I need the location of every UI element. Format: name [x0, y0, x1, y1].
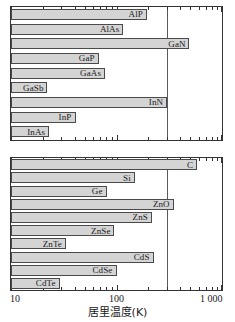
- axis-tick-minor: [112, 287, 113, 290]
- chart-panel-iii-v: AlPAlAsGaNGaPGaAsGaSbInNInPInAs: [10, 6, 223, 141]
- axis-tick-minor: [206, 137, 207, 140]
- axis-tick-major: [117, 285, 118, 290]
- bar-label-c: C: [187, 160, 193, 171]
- x-tick-label-10: 10: [10, 293, 20, 305]
- axis-tick-minor: [190, 287, 191, 290]
- axis-tick-minor: [75, 137, 76, 140]
- axis-tick-minor: [190, 7, 191, 10]
- axis-tick-minor: [148, 137, 149, 140]
- axis-tick-minor: [93, 137, 94, 140]
- axis-tick-minor: [199, 158, 200, 161]
- axis-tick-minor: [212, 137, 213, 140]
- axis-tick-major: [221, 285, 222, 290]
- axis-tick-minor: [167, 287, 168, 290]
- x-tick-label-100: 100: [109, 293, 124, 305]
- axis-tick-minor: [212, 7, 213, 10]
- bar-zno[interactable]: [11, 199, 174, 210]
- bar-label-alas: AlAs: [100, 24, 119, 35]
- bar-gan[interactable]: [11, 38, 189, 49]
- axis-tick-minor: [199, 137, 200, 140]
- room-temperature-reference-line: [167, 158, 168, 290]
- axis-tick-minor: [106, 287, 107, 290]
- axis-tick-major: [221, 135, 222, 140]
- bar-label-inp: InP: [59, 112, 72, 123]
- bar-cds[interactable]: [11, 252, 154, 263]
- bar-label-zns: ZnS: [133, 212, 148, 223]
- x-tick-label-1000: 1 000: [200, 293, 223, 305]
- axis-tick-minor: [100, 137, 101, 140]
- axis-tick-major: [221, 7, 222, 12]
- room-temperature-reference-line: [167, 7, 168, 140]
- axis-tick-minor: [75, 287, 76, 290]
- axis-tick-minor: [217, 7, 218, 10]
- bar-label-gan: GaN: [168, 39, 185, 50]
- axis-tick-minor: [61, 287, 62, 290]
- axis-tick-minor: [217, 158, 218, 161]
- bar-inn[interactable]: [11, 97, 167, 108]
- axis-tick-minor: [93, 287, 94, 290]
- axis-tick-minor: [100, 287, 101, 290]
- curie-temperature-figure: AlPAlAsGaNGaPGaAsGaSbInNInPInAs CSiGeZnO…: [0, 0, 235, 322]
- axis-tick-minor: [190, 137, 191, 140]
- x-axis-title: 居里温度(K): [0, 306, 235, 320]
- axis-tick-minor: [85, 137, 86, 140]
- bar-label-zno: ZnO: [153, 199, 170, 210]
- axis-tick-minor: [180, 7, 181, 10]
- axis-tick-minor: [212, 287, 213, 290]
- plot-area-bottom: CSiGeZnOZnSZnSeZnTeCdSCdSeCdTe: [11, 158, 222, 290]
- bar-label-cdse: CdSe: [93, 265, 113, 276]
- bar-label-alp: AlP: [129, 9, 143, 20]
- axis-tick-minor: [180, 137, 181, 140]
- axis-tick-minor: [167, 7, 168, 10]
- bar-label-cds: CdS: [134, 252, 150, 263]
- bar-label-znte: ZnTe: [43, 239, 62, 250]
- axis-tick-minor: [206, 158, 207, 161]
- bar-label-cdte: CdTe: [36, 278, 56, 289]
- axis-tick-major: [117, 135, 118, 140]
- axis-tick-minor: [61, 137, 62, 140]
- axis-tick-minor: [199, 7, 200, 10]
- bar-label-inas: InAs: [27, 127, 45, 138]
- axis-tick-minor: [167, 137, 168, 140]
- chart-panel-ii-vi: CSiGeZnOZnSZnSeZnTeCdSCdSeCdTe: [10, 157, 223, 291]
- bar-si[interactable]: [11, 172, 135, 183]
- bar-label-gasb: GaSb: [23, 83, 43, 94]
- bar-alp[interactable]: [11, 9, 147, 20]
- bar-label-znse: ZnSe: [91, 226, 110, 237]
- bar-label-gaas: GaAs: [80, 68, 101, 79]
- bar-zns[interactable]: [11, 212, 152, 223]
- axis-tick-major: [221, 158, 222, 163]
- axis-tick-minor: [148, 7, 149, 10]
- plot-area-top: AlPAlAsGaNGaPGaAsGaSbInNInPInAs: [11, 7, 222, 140]
- axis-tick-minor: [85, 287, 86, 290]
- axis-tick-minor: [148, 287, 149, 290]
- bar-label-si: Si: [123, 173, 131, 184]
- axis-tick-minor: [180, 287, 181, 290]
- bar-label-gap: GaP: [79, 53, 95, 64]
- axis-tick-minor: [212, 158, 213, 161]
- axis-tick-minor: [112, 137, 113, 140]
- axis-tick-minor: [217, 287, 218, 290]
- axis-tick-minor: [206, 287, 207, 290]
- x-axis-tick-labels: 101001 000: [0, 293, 235, 306]
- axis-tick-minor: [106, 137, 107, 140]
- axis-tick-minor: [217, 137, 218, 140]
- bar-label-inn: InN: [149, 97, 163, 108]
- bar-c[interactable]: [11, 159, 197, 170]
- axis-tick-minor: [206, 7, 207, 10]
- axis-tick-minor: [199, 287, 200, 290]
- bar-label-ge: Ge: [92, 186, 103, 197]
